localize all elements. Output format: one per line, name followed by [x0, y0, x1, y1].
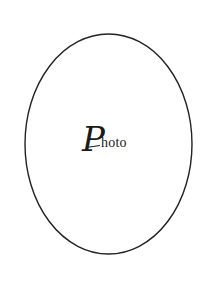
label-rest-text: hoto: [101, 136, 127, 150]
